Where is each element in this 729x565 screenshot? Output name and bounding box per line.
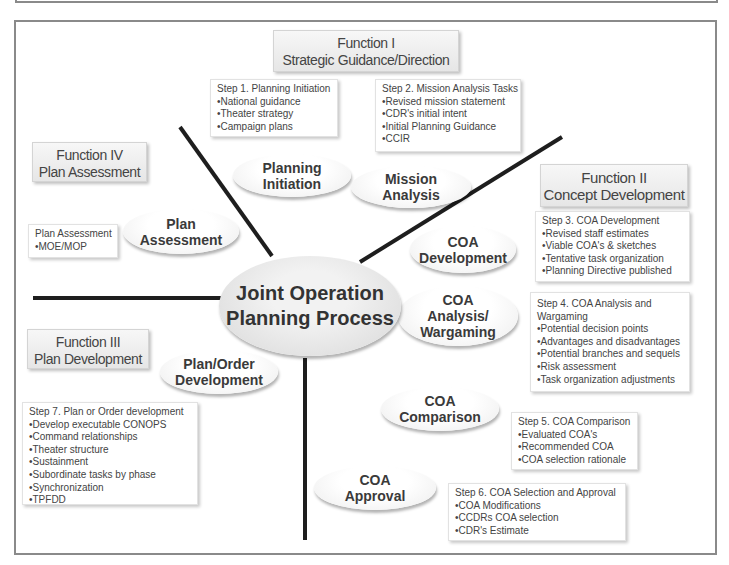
plan-assessment-box: Plan Assessment •MOE/MOP	[28, 224, 118, 258]
step-1-item: •National guidance	[217, 96, 331, 109]
step-5-item: •Evaluated COA's	[518, 429, 631, 442]
step-7-item: •Develop executable CONOPS	[29, 419, 191, 432]
step-3-item: •Tentative task organization	[542, 253, 683, 266]
center-title-line-2: Planning Process	[226, 306, 394, 331]
step-4-item: •Potential decision points	[537, 323, 683, 336]
phase-label: COA	[447, 234, 478, 250]
function-iv-title: Function IV	[33, 147, 146, 164]
step-7-item: •Synchronization	[29, 482, 191, 495]
phase-label: COA	[442, 292, 473, 308]
step-1-item: •Campaign plans	[217, 121, 331, 134]
center-joint-operation-planning-process: Joint Operation Planning Process	[219, 256, 401, 356]
step-5-box: Step 5. COA Comparison •Evaluated COA's …	[511, 412, 638, 470]
step-2-item: •CCIR	[382, 133, 514, 146]
step-5-item: •Recommended COA	[518, 441, 631, 454]
phase-label: Planning	[262, 160, 321, 176]
phase-coa-development: COA Development	[410, 226, 516, 273]
step-3-item: •Planning Directive published	[542, 265, 683, 278]
step-3-title: Step 3. COA Development	[542, 215, 683, 228]
plan-assessment-title: Plan Assessment	[35, 228, 111, 241]
step-4-box: Step 4. COA Analysis and Wargaming •Pote…	[530, 292, 690, 392]
step-5-title: Step 5. COA Comparison	[518, 416, 631, 429]
function-iv-box: Function IV Plan Assessment	[32, 142, 147, 182]
step-2-item: •Initial Planning Guidance	[382, 121, 514, 134]
function-ii-title: Function II	[541, 169, 687, 186]
phase-label: Approval	[345, 488, 406, 504]
step-2-title: Step 2. Mission Analysis Tasks	[382, 83, 514, 96]
phase-coa-approval: COA Approval	[314, 466, 436, 510]
function-i-title: Function I	[274, 35, 458, 52]
function-iii-subtitle: Plan Development	[28, 351, 148, 368]
phase-coa-comparison: COA Comparison	[381, 387, 499, 431]
step-7-item: •Sustainment	[29, 456, 191, 469]
phase-label: Initiation	[263, 176, 321, 192]
function-iii-box: Function III Plan Development	[27, 329, 149, 369]
step-2-box: Step 2. Mission Analysis Tasks •Revised …	[375, 79, 521, 152]
phase-label: Comparison	[399, 409, 481, 425]
step-6-item: •CDR's Estimate	[455, 525, 619, 538]
step-4-item: •Task organization adjustments	[537, 374, 683, 387]
step-7-item: •Command relationships	[29, 431, 191, 444]
step-4-item: •Risk assessment	[537, 361, 683, 374]
step-4-title: Step 4. COA Analysis and	[537, 298, 683, 311]
step-2-item: •CDR's initial intent	[382, 108, 514, 121]
function-i-box: Function I Strategic Guidance/Direction	[273, 30, 459, 72]
phase-plan-order-development: Plan/Order Development	[160, 350, 278, 394]
step-1-box: Step 1. Planning Initiation •National gu…	[210, 79, 338, 137]
phase-label: Analysis/	[427, 308, 488, 324]
step-6-item: •CCDRs COA selection	[455, 512, 619, 525]
phase-label: Plan	[166, 216, 196, 232]
step-4-item: •Potential branches and sequels	[537, 348, 683, 361]
phase-label: COA	[359, 472, 390, 488]
step-1-title: Step 1. Planning Initiation	[217, 83, 331, 96]
step-4-title-cont: Wargaming	[537, 311, 683, 324]
function-iv-subtitle: Plan Assessment	[33, 164, 146, 181]
phase-coa-analysis-wargaming: COA Analysis/ Wargaming	[398, 286, 518, 346]
step-3-box: Step 3. COA Development •Revised staff e…	[535, 211, 690, 282]
phase-planning-initiation: Planning Initiation	[233, 154, 351, 197]
step-7-item: •Theater structure	[29, 444, 191, 457]
phase-label: Assessment	[140, 232, 223, 248]
step-2-item: •Revised mission statement	[382, 96, 514, 109]
step-6-title: Step 6. COA Selection and Approval	[455, 487, 619, 500]
function-i-subtitle: Strategic Guidance/Direction	[274, 52, 458, 69]
phase-label: Development	[175, 372, 263, 388]
step-6-item: •COA Modifications	[455, 500, 619, 513]
phase-label: Development	[419, 250, 507, 266]
function-ii-subtitle: Concept Development	[541, 186, 687, 203]
plan-assessment-item: •MOE/MOP	[35, 241, 111, 254]
function-ii-box: Function II Concept Development	[540, 164, 688, 207]
phase-label: COA	[424, 393, 455, 409]
step-4-item: •Advantages and disadvantages	[537, 336, 683, 349]
phase-label: Analysis	[382, 187, 440, 203]
step-5-item: •COA selection rationale	[518, 454, 631, 467]
step-7-box: Step 7. Plan or Order development •Devel…	[22, 402, 198, 505]
step-3-item: •Viable COA's & sketches	[542, 240, 683, 253]
step-3-item: •Revised staff estimates	[542, 228, 683, 241]
phase-mission-analysis: Mission Analysis	[351, 166, 471, 208]
step-7-item: •Subordinate tasks by phase	[29, 469, 191, 482]
phase-label: Wargaming	[420, 324, 496, 340]
phase-label: Mission	[385, 171, 437, 187]
center-title-line-1: Joint Operation	[236, 281, 384, 306]
step-1-item: •Theater strategy	[217, 108, 331, 121]
step-6-box: Step 6. COA Selection and Approval •COA …	[448, 483, 626, 541]
step-7-title: Step 7. Plan or Order development	[29, 406, 191, 419]
phase-label: Plan/Order	[183, 356, 255, 372]
function-iii-title: Function III	[28, 334, 148, 351]
phase-plan-assessment: Plan Assessment	[123, 209, 239, 254]
step-7-item: •TPFDD	[29, 494, 191, 507]
